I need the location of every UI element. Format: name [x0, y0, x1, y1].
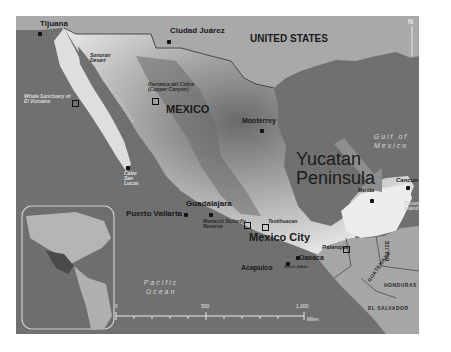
- site-marker-teotihuacan: [262, 224, 269, 231]
- north-indicator: N: [408, 18, 413, 25]
- map-frame: UNITED STATES MEXICO GUATEMALA BELIZE HO…: [16, 16, 419, 334]
- label-merida: Merida: [358, 188, 374, 193]
- city-dot-tijuana: [38, 32, 42, 36]
- city-dot-guadalajara: [209, 213, 213, 217]
- city-dot-monterrey: [260, 129, 264, 133]
- label-guadalajara: Guadalajara: [186, 200, 232, 208]
- city-dot-merida: [370, 199, 374, 203]
- label-ciudad-juarez: Ciudad Juárez: [170, 27, 225, 35]
- city-dot-cancun: [406, 186, 410, 190]
- label-el-salvador: EL SALVADOR: [368, 306, 409, 311]
- label-monarch-butterfly: Monarch Butterfly Reserve: [203, 219, 247, 229]
- label-oaxaca: Oaxaca: [299, 254, 324, 261]
- label-barranca-del-cobre: Barranca del Cobre (Copper Canyon): [148, 82, 208, 92]
- city-dot-puerto-vallarta: [184, 213, 188, 217]
- city-dot-ciudad-juarez: [167, 40, 171, 44]
- scale-mid: 500: [201, 304, 209, 309]
- label-el-vizcaino: Whale Sanctuary of El Vizcaíno: [24, 94, 72, 104]
- label-cancun: Cancun: [396, 177, 418, 183]
- site-marker-copper-canyon: [152, 98, 159, 105]
- label-monterrey: Monterrey: [242, 117, 276, 124]
- label-acapulco: Acapulco: [241, 264, 273, 271]
- label-honduras: HONDURAS: [384, 283, 417, 288]
- callout-line2: Peninsula: [296, 169, 375, 188]
- label-cozumel: Cozumel Island: [404, 201, 419, 211]
- scale-unit: Miles: [307, 317, 319, 322]
- label-monte-alban: Monte Albán: [284, 265, 308, 269]
- label-tijuana: Tijuana: [40, 20, 68, 28]
- label-mexico-city: Mexico City: [249, 232, 310, 243]
- label-belize: BELIZE: [385, 240, 390, 261]
- label-teotihuacan: Teotihuacan: [268, 219, 297, 224]
- label-cabo-san-lucas: Cabo San Lucas: [124, 171, 144, 186]
- scale-end: 1,000: [296, 304, 309, 309]
- label-mexico: MEXICO: [166, 104, 209, 115]
- label-palenque: Palenque: [322, 244, 349, 250]
- scale-start: 0: [115, 304, 118, 309]
- label-united-states: UNITED STATES: [250, 34, 328, 44]
- site-marker-el-vizcaino: [72, 100, 79, 107]
- label-pacific-ocean: Pacific Ocean: [136, 278, 186, 296]
- label-sonoran-desert: Sonoran Desert: [90, 53, 120, 63]
- callout-line1: Yucatan: [296, 150, 361, 169]
- label-puerto-vallarta: Puerto Vallarta: [126, 210, 182, 218]
- label-gulf-of-mexico: Gulf of Mexico: [366, 132, 416, 150]
